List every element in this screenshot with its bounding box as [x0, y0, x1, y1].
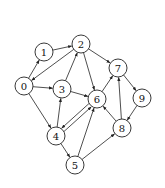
node-6: 6 [88, 90, 106, 108]
node-1: 1 [35, 43, 53, 61]
node-label: 1 [41, 47, 47, 58]
directed-graph: 0123456789 [0, 0, 165, 188]
edge-0-to-3 [33, 87, 53, 89]
edge-3-to-6 [71, 91, 88, 96]
edge-3-to-2 [66, 53, 78, 81]
node-label: 6 [94, 94, 100, 105]
node-8: 8 [113, 119, 131, 137]
node-0: 0 [15, 77, 33, 95]
node-5: 5 [66, 156, 84, 174]
edge-9-to-8 [127, 105, 137, 120]
edge-1-to-2 [53, 46, 72, 50]
node-2: 2 [72, 35, 90, 53]
node-label: 3 [59, 84, 65, 95]
edge-2-to-7 [89, 49, 110, 63]
edge-5-to-8 [82, 134, 114, 160]
edge-4-to-3 [57, 98, 61, 127]
node-label: 5 [72, 160, 78, 171]
edge-8-to-6 [103, 106, 116, 121]
node-label: 0 [21, 81, 27, 92]
node-label: 9 [139, 93, 145, 104]
edge-6-to-7 [102, 76, 113, 92]
node-7: 7 [109, 59, 127, 77]
node-label: 2 [78, 39, 84, 50]
node-label: 7 [115, 63, 121, 74]
node-label: 4 [53, 131, 59, 142]
edge-5-to-6 [78, 108, 94, 156]
node-9: 9 [133, 89, 151, 107]
node-3: 3 [53, 80, 71, 98]
edge-0-to-4 [29, 94, 51, 128]
edge-2-to-6 [84, 53, 95, 90]
node-label: 8 [119, 123, 125, 134]
node-4: 4 [47, 127, 65, 145]
edge-8-to-7 [119, 77, 122, 119]
edge-4-to-5 [61, 144, 70, 158]
edge-7-to-9 [124, 75, 136, 91]
edge-6-to-4 [62, 104, 89, 129]
